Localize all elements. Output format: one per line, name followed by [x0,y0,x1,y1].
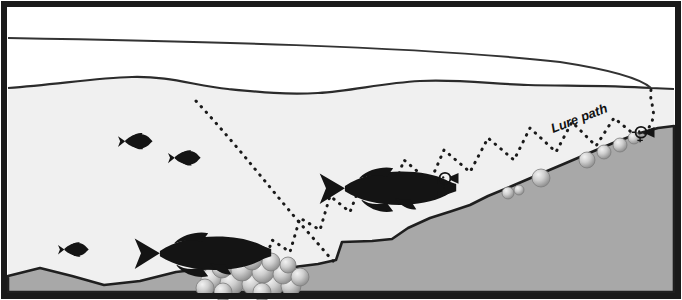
lure-path-diagram: Lure path [0,0,682,300]
